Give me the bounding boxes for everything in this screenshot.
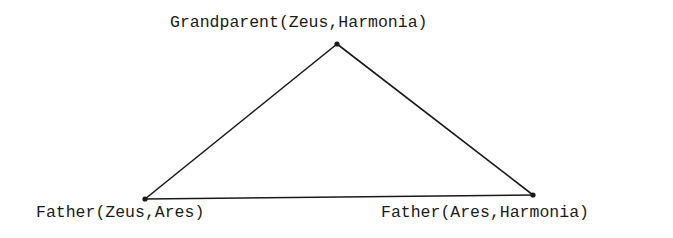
- node-label-father-ares-harmonia: Father(Ares,Harmonia): [381, 205, 589, 222]
- node-label-father-zeus-ares: Father(Zeus,Ares): [36, 205, 204, 222]
- edge-left-right: [145, 195, 533, 199]
- node-right-dot: [530, 192, 535, 197]
- edge-top-right: [337, 44, 533, 195]
- node-label-grandparent: Grandparent(Zeus,Harmonia): [170, 15, 427, 32]
- edge-top-left: [145, 44, 337, 199]
- diagram-canvas: Grandparent(Zeus,Harmonia) Father(Zeus,A…: [0, 0, 673, 238]
- node-left-dot: [142, 196, 147, 201]
- node-top-dot: [334, 41, 339, 46]
